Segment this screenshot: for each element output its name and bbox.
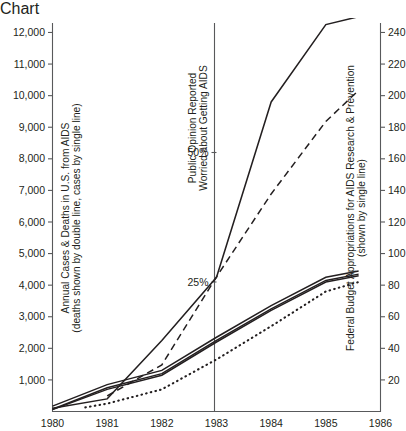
x-tick-label: 1980 [41,417,65,429]
axis-frame-path [53,23,381,412]
left-axis-ticks [48,32,53,379]
right-tick-label: 180 [388,121,406,133]
right-tick-label: 80 [388,279,400,291]
axis-frame [53,23,381,412]
right-tick-label: 240 [388,26,406,38]
aids-statistics-chart: 1,0002,0003,0004,0005,0006,0007,0008,000… [0,18,406,431]
x-tick-label: 1984 [259,417,283,429]
left-tick-label: 11,000 [14,58,45,70]
right-tick-label: 200 [388,89,406,101]
x-tick-label: 1983 [205,417,229,429]
right-axis-title-line2: (shown by single line) [356,159,367,257]
x-axis-tick-labels: 1980198119821983198419851986 [41,417,393,429]
left-axis-title-line1: Annual Cases & Deaths in U.S. from AIDS [60,122,71,313]
right-tick-label: 40 [388,342,400,354]
left-tick-label: 9,000 [19,121,45,133]
middle-tick-label: 25% [187,276,208,288]
right-axis-title-line1: Federal Budget Appropriations for AIDS R… [345,65,356,351]
series-line-dotted [85,282,358,407]
middle-axis-title-line1: Public Opinion Reported [187,72,198,183]
left-tick-label: 10,000 [13,89,45,101]
left-tick-label: 3,000 [19,310,45,322]
right-tick-label: 220 [388,58,406,70]
x-tick-label: 1982 [150,417,174,429]
x-tick-label: 1986 [369,417,393,429]
axis-titles: Annual Cases & Deaths in U.S. from AIDS … [60,65,367,351]
left-tick-label: 2,000 [19,342,45,354]
left-tick-label: 5,000 [19,247,45,259]
chart-svg: 1,0002,0003,0004,0005,0006,0007,0008,000… [0,18,406,431]
x-tick-label: 1985 [314,417,338,429]
left-tick-label: 4,000 [19,279,45,291]
left-axis-tick-labels: 1,0002,0003,0004,0005,0006,0007,0008,000… [13,26,45,385]
left-tick-label: 8,000 [19,152,45,164]
series-line-double-lower [53,274,359,409]
left-axis-title-line2: (deaths shown by double line, cases by s… [71,103,82,332]
left-tick-label: 6,000 [19,216,45,228]
left-tick-label: 7,000 [19,184,45,196]
right-tick-label: 120 [388,216,406,228]
series-line-double-upper [53,271,359,406]
right-tick-label: 160 [388,152,406,164]
right-tick-label: 20 [388,374,400,386]
left-tick-label: 1,000 [19,374,45,386]
right-axis-tick-labels: 20406080100120140160180200220240 [388,26,406,385]
right-tick-label: 100 [388,247,406,259]
x-tick-label: 1981 [95,417,119,429]
middle-axis-title-line2: Worried about Getting AIDS [198,65,209,191]
right-tick-label: 60 [388,310,400,322]
right-tick-label: 140 [388,184,406,196]
right-axis-ticks [381,32,386,379]
left-tick-label: 12,000 [13,26,45,38]
